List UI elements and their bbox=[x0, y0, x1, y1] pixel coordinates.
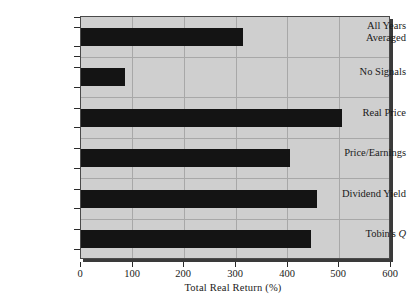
y-tick-11 bbox=[74, 208, 80, 209]
y-tick-6 bbox=[74, 108, 80, 109]
bar-no-signals bbox=[81, 68, 125, 86]
chart-figure: All Years Averaged No Signals Real Price… bbox=[0, 0, 412, 304]
y-tick-5 bbox=[74, 87, 80, 88]
bar-price-earnings bbox=[81, 149, 290, 167]
y-label-tobins-q-text: Tobin's bbox=[365, 228, 398, 239]
y-tick-12 bbox=[74, 229, 80, 230]
bar-real-price bbox=[81, 109, 342, 127]
x-tick-label-500: 500 bbox=[318, 267, 358, 280]
plot-frame-shadow-right bbox=[390, 19, 393, 262]
x-tick-label-0: 0 bbox=[60, 267, 100, 280]
plot-frame-shadow-bottom bbox=[83, 259, 393, 262]
x-tick-label-100: 100 bbox=[112, 267, 152, 280]
y-tick-10 bbox=[74, 189, 80, 190]
y-label-tobins-q-symbol: Q bbox=[398, 228, 406, 239]
y-tick-7 bbox=[74, 127, 80, 128]
y-label-tobins-q: Tobin's Q bbox=[338, 228, 412, 240]
gridline-y-5 bbox=[81, 219, 389, 220]
y-tick-1 bbox=[74, 27, 80, 28]
bar-all-years-averaged bbox=[81, 28, 243, 46]
y-label-dividend-yield: Dividend Yield bbox=[338, 188, 412, 200]
y-label-no-signals: No Signals bbox=[338, 66, 412, 78]
y-label-all-years-averaged: All Years Averaged bbox=[338, 20, 412, 46]
gridline-y-1 bbox=[81, 57, 389, 58]
bar-dividend-yield bbox=[81, 190, 317, 208]
y-tick-4 bbox=[74, 67, 80, 68]
gridline-y-4 bbox=[81, 178, 389, 179]
bar-tobins-q bbox=[81, 230, 311, 248]
gridline-y-3 bbox=[81, 138, 389, 139]
x-axis-title: Total Real Return (%) bbox=[0, 282, 412, 293]
y-tick-9 bbox=[74, 168, 80, 169]
y-tick-8 bbox=[74, 148, 80, 149]
x-tick-label-300: 300 bbox=[215, 267, 255, 280]
x-axis-title-text: Total Real Return (%) bbox=[184, 282, 281, 293]
y-tick-13 bbox=[74, 249, 80, 250]
y-tick-0 bbox=[74, 17, 80, 18]
x-tick-label-400: 400 bbox=[267, 267, 307, 280]
y-tick-3 bbox=[74, 56, 80, 57]
gridline-y-2 bbox=[81, 97, 389, 98]
plot-area bbox=[80, 16, 390, 259]
y-label-price-earnings: Price/Earnings bbox=[338, 147, 412, 159]
x-tick-label-600: 600 bbox=[370, 267, 410, 280]
y-label-real-price: Real Price bbox=[338, 107, 412, 119]
x-tick-label-200: 200 bbox=[163, 267, 203, 280]
y-tick-2 bbox=[74, 46, 80, 47]
